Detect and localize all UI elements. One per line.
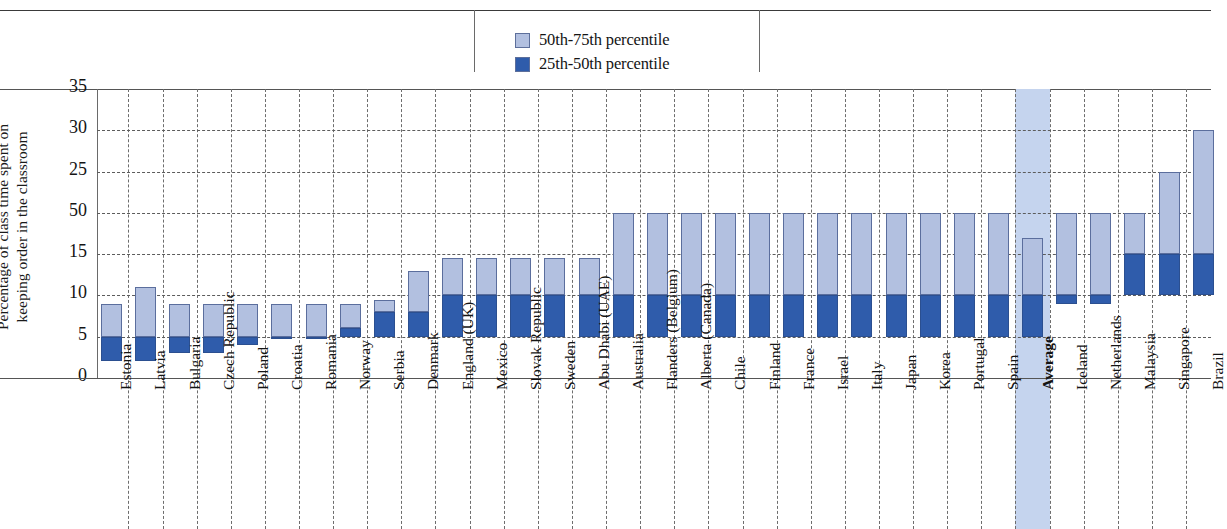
bar-serbia[interactable] xyxy=(374,300,395,337)
bar-australia[interactable] xyxy=(613,213,634,337)
bar-segment-25th-50th xyxy=(476,295,497,336)
x-label-mexico: Mexico xyxy=(493,343,511,390)
y-tick-10: 10 xyxy=(45,282,87,303)
gridline-x-7 xyxy=(333,89,334,529)
bar-japan[interactable] xyxy=(886,213,907,337)
bar-romania[interactable] xyxy=(306,304,327,337)
bar-norway[interactable] xyxy=(340,304,361,337)
bar-spain[interactable] xyxy=(988,213,1009,337)
gridline-x-22 xyxy=(845,89,846,529)
bar-segment-25th-50th xyxy=(817,295,838,336)
bar-netherlands[interactable] xyxy=(1090,213,1111,304)
x-label-croatia: Croatia xyxy=(288,344,306,390)
bar-segment-25th-50th xyxy=(920,295,941,336)
x-label-flanders-belgium: Flanders (Belgium) xyxy=(663,269,681,390)
bar-poland[interactable] xyxy=(237,304,258,345)
x-label-malaysia: Malaysia xyxy=(1141,333,1159,390)
bar-segment-25th-50th xyxy=(954,295,975,336)
legend-item-25th-50th: 25th-50th percentile xyxy=(515,54,669,74)
x-label-finland: Finland xyxy=(766,343,784,390)
y-tick-20: 50 xyxy=(45,200,87,221)
gridline-x-19 xyxy=(743,89,744,529)
bar-average[interactable] xyxy=(1022,238,1043,337)
bar-segment-50th-75th xyxy=(169,304,190,337)
gridline-x-5 xyxy=(265,89,266,529)
y-tick-5: 5 xyxy=(45,324,87,345)
bar-segment-25th-50th xyxy=(1193,254,1214,295)
bar-sweden[interactable] xyxy=(544,258,565,336)
bar-chile[interactable] xyxy=(715,213,736,337)
bar-segment-25th-50th xyxy=(1159,254,1180,295)
bar-segment-50th-75th xyxy=(817,213,838,296)
bar-brazil[interactable] xyxy=(1193,130,1214,295)
x-label-bulgaria: Bulgaria xyxy=(186,337,204,390)
bar-singapore[interactable] xyxy=(1159,172,1180,296)
x-label-serbia: Serbia xyxy=(390,350,408,390)
x-label-sweden: Sweden xyxy=(561,341,579,390)
bar-segment-50th-75th xyxy=(1022,238,1043,296)
bar-iceland[interactable] xyxy=(1056,213,1077,304)
bar-segment-25th-50th xyxy=(1022,295,1043,336)
bar-mexico[interactable] xyxy=(476,258,497,336)
bar-malaysia[interactable] xyxy=(1124,213,1145,296)
x-label-brazil: Brazil xyxy=(1209,352,1227,390)
x-label-latvia: Latvia xyxy=(151,350,169,390)
bar-segment-50th-75th xyxy=(135,287,156,337)
gridline-x-32 xyxy=(1186,89,1187,529)
gridline-y-25 xyxy=(97,172,1211,173)
y-tick-35: 35 xyxy=(45,76,87,97)
bar-segment-50th-75th xyxy=(408,271,429,312)
x-label-korea: Korea xyxy=(936,352,954,390)
bar-portugal[interactable] xyxy=(954,213,975,337)
y-tick-25: 25 xyxy=(45,159,87,180)
bar-segment-25th-50th xyxy=(1124,254,1145,295)
bar-segment-25th-50th xyxy=(715,295,736,336)
x-label-japan: Japan xyxy=(902,355,920,390)
bar-france[interactable] xyxy=(783,213,804,337)
gridline-x-24 xyxy=(913,89,914,529)
x-label-netherlands: Netherlands xyxy=(1107,315,1125,390)
bar-segment-50th-75th xyxy=(920,213,941,296)
bar-segment-50th-75th xyxy=(1090,213,1111,296)
bar-segment-25th-50th xyxy=(749,295,770,336)
x-label-alberta-canada: Alberta (Canada) xyxy=(697,283,715,390)
bar-denmark[interactable] xyxy=(408,271,429,337)
bar-segment-50th-75th xyxy=(749,213,770,296)
y-tick-30: 30 xyxy=(45,117,87,138)
gridline-x-31 xyxy=(1152,89,1153,529)
bar-croatia[interactable] xyxy=(271,304,292,337)
gridline-x-23 xyxy=(879,89,880,529)
x-label-israel: Israel xyxy=(834,356,852,390)
bar-segment-25th-50th xyxy=(340,328,361,336)
bar-segment-50th-75th xyxy=(237,304,258,337)
bar-korea[interactable] xyxy=(920,213,941,337)
x-label-spain: Spain xyxy=(1004,355,1022,390)
x-label-average: Average xyxy=(1039,336,1057,390)
gridline-x-8 xyxy=(367,89,368,529)
bar-segment-50th-75th xyxy=(271,304,292,337)
bar-israel[interactable] xyxy=(817,213,838,337)
gridline-y-30 xyxy=(97,130,1211,131)
gridline-x-29 xyxy=(1084,89,1085,529)
x-label-norway: Norway xyxy=(356,340,374,390)
bar-segment-25th-50th xyxy=(783,295,804,336)
legend-swatch-25th-50th xyxy=(515,57,530,72)
x-label-italy: Italy xyxy=(868,362,886,390)
x-label-france: France xyxy=(800,348,818,390)
bar-finland[interactable] xyxy=(749,213,770,337)
x-label-abu-dhabi-uae: Abu Dhabi (UAE) xyxy=(595,275,613,390)
bar-segment-50th-75th xyxy=(340,304,361,329)
x-label-slovak-republic: Slovak Republic xyxy=(527,287,545,390)
bar-segment-50th-75th xyxy=(306,304,327,337)
bar-segment-50th-75th xyxy=(1056,213,1077,296)
x-label-romania: Romania xyxy=(322,334,340,390)
bar-italy[interactable] xyxy=(851,213,872,337)
y-axis-title: Percentage of class time spent on keepin… xyxy=(0,0,31,477)
bar-segment-50th-75th xyxy=(101,304,122,337)
gridline-x-3 xyxy=(197,89,198,529)
gridline-x-28 xyxy=(1050,89,1051,529)
bar-segment-50th-75th xyxy=(988,213,1009,296)
bar-segment-50th-75th xyxy=(544,258,565,295)
bar-segment-50th-75th xyxy=(374,300,395,312)
